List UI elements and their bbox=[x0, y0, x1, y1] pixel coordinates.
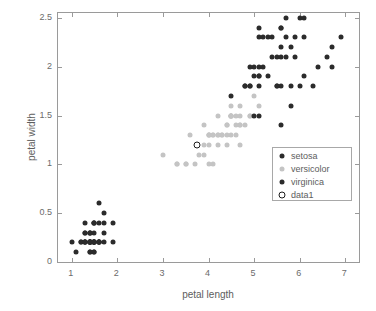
data-point-versicolor bbox=[201, 152, 206, 157]
x-axis-label: petal length bbox=[182, 289, 234, 300]
data-point-versicolor bbox=[238, 113, 243, 118]
y-axis-tick bbox=[355, 18, 359, 19]
data-point-versicolor bbox=[229, 103, 234, 108]
data-point-setosa bbox=[110, 220, 115, 225]
x-axis-tick bbox=[117, 13, 118, 17]
data-point-setosa bbox=[87, 250, 92, 255]
data-point-setosa bbox=[101, 220, 106, 225]
data-point-versicolor bbox=[242, 123, 247, 128]
data-point-virginica bbox=[297, 84, 302, 89]
data-point-versicolor bbox=[224, 123, 229, 128]
data-point-versicolor bbox=[192, 162, 197, 167]
data-point-virginica bbox=[261, 35, 266, 40]
data-point-virginica bbox=[302, 74, 307, 79]
data-point-setosa bbox=[101, 211, 106, 216]
y-axis-tick-label: 0 bbox=[28, 256, 52, 266]
data-point-versicolor bbox=[215, 113, 220, 118]
data-point-versicolor bbox=[238, 142, 243, 147]
data-point-virginica bbox=[270, 35, 275, 40]
legend-label: versicolor bbox=[291, 164, 330, 174]
legend-label: data1 bbox=[291, 190, 314, 200]
x-axis-tick bbox=[254, 13, 255, 17]
data-point-virginica bbox=[279, 54, 284, 59]
data-point-virginica bbox=[242, 84, 247, 89]
data-point-versicolor bbox=[188, 133, 193, 138]
x-axis-tick bbox=[72, 13, 73, 17]
x-axis-tick-label: 2 bbox=[114, 268, 119, 278]
data-point-virginica bbox=[329, 45, 334, 50]
data-point-versicolor bbox=[197, 152, 202, 157]
data-point-virginica bbox=[279, 123, 284, 128]
data-point-versicolor bbox=[220, 133, 225, 138]
data-point-setosa bbox=[92, 240, 97, 245]
data-point-virginica bbox=[311, 84, 316, 89]
data-point-setosa bbox=[83, 220, 88, 225]
data-point-virginica bbox=[338, 35, 343, 40]
legend-marker-icon bbox=[273, 149, 291, 162]
data-point-virginica bbox=[329, 64, 334, 69]
data-point-versicolor bbox=[233, 123, 238, 128]
y-axis-tick bbox=[58, 67, 62, 68]
data-point-versicolor bbox=[238, 103, 243, 108]
data-point-virginica bbox=[293, 54, 298, 59]
data-point-setosa bbox=[97, 220, 102, 225]
x-axis-tick bbox=[163, 13, 164, 17]
data-point-virginica bbox=[229, 94, 234, 99]
data-point-virginica bbox=[247, 84, 252, 89]
data-point-virginica bbox=[279, 84, 284, 89]
y-axis-tick bbox=[355, 213, 359, 214]
data-point-virginica bbox=[284, 54, 289, 59]
x-axis-tick bbox=[254, 258, 255, 262]
data-point-virginica bbox=[288, 103, 293, 108]
y-axis-tick-label: 2.5 bbox=[28, 12, 52, 22]
data-point-setosa bbox=[87, 240, 92, 245]
y-axis-tick bbox=[58, 116, 62, 117]
legend-marker-icon bbox=[273, 162, 291, 175]
plot-area bbox=[57, 12, 360, 263]
data-point-versicolor bbox=[211, 133, 216, 138]
data-point-setosa bbox=[101, 230, 106, 235]
y-axis-tick bbox=[355, 262, 359, 263]
data-point-virginica bbox=[279, 45, 284, 50]
x-axis-tick bbox=[209, 13, 210, 17]
legend-item-data1[interactable]: data1 bbox=[273, 188, 351, 201]
data-point-versicolor bbox=[160, 152, 165, 157]
data-point-virginica bbox=[325, 54, 330, 59]
x-axis-tick-label: 3 bbox=[159, 268, 164, 278]
y-axis-label: petal width bbox=[26, 113, 37, 161]
data-point-virginica bbox=[256, 74, 261, 79]
data-point-versicolor bbox=[224, 133, 229, 138]
x-axis-tick bbox=[300, 258, 301, 262]
data-point-virginica bbox=[256, 25, 261, 30]
x-axis-tick bbox=[345, 258, 346, 262]
data-point-virginica bbox=[284, 15, 289, 20]
x-axis-tick-label: 6 bbox=[296, 268, 301, 278]
data-point-virginica bbox=[315, 64, 320, 69]
data-point-virginica bbox=[252, 74, 257, 79]
data-point-setosa bbox=[110, 240, 115, 245]
x-axis-tick bbox=[209, 258, 210, 262]
y-axis-tick bbox=[58, 213, 62, 214]
data-point-virginica bbox=[270, 54, 275, 59]
data-point-setosa bbox=[87, 230, 92, 235]
data-point-versicolor bbox=[229, 113, 234, 118]
data-point-virginica bbox=[293, 35, 298, 40]
legend-item-virginica[interactable]: virginica bbox=[273, 175, 351, 188]
data-point-versicolor bbox=[233, 133, 238, 138]
data-point-virginica bbox=[302, 15, 307, 20]
y-axis-tick bbox=[58, 164, 62, 165]
data-point-setosa bbox=[92, 250, 97, 255]
legend-item-versicolor[interactable]: versicolor bbox=[273, 162, 351, 175]
legend-item-setosa[interactable]: setosa bbox=[273, 149, 351, 162]
data-point-data1 bbox=[194, 141, 201, 148]
data-point-setosa bbox=[92, 230, 97, 235]
legend-label: setosa bbox=[291, 151, 318, 161]
data-point-versicolor bbox=[174, 162, 179, 167]
x-axis-tick bbox=[163, 258, 164, 262]
x-axis-tick-label: 5 bbox=[251, 268, 256, 278]
data-point-virginica bbox=[288, 45, 293, 50]
data-point-virginica bbox=[288, 84, 293, 89]
legend: setosaversicolorvirginicadata1 bbox=[272, 147, 352, 201]
data-point-versicolor bbox=[206, 142, 211, 147]
data-point-virginica bbox=[261, 64, 266, 69]
